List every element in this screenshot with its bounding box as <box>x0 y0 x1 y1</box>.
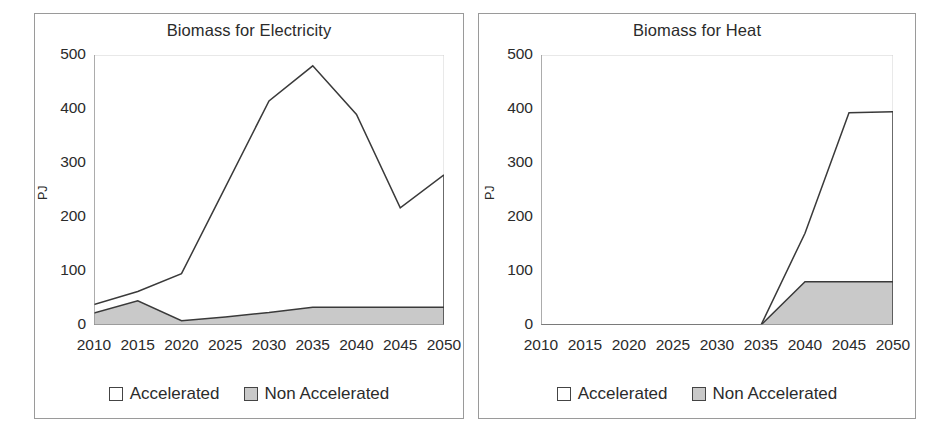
y-axis-tick-label: 100 <box>42 261 86 279</box>
x-axis-tick-label: 2020 <box>159 336 205 354</box>
legend-swatch-accelerated-icon <box>557 387 571 401</box>
legend-label-non-accelerated: Non Accelerated <box>265 384 390 404</box>
legend-swatch-non-accelerated-icon <box>244 387 258 401</box>
y-axis-tick-label: 300 <box>42 153 86 171</box>
y-axis-tick-label: 200 <box>42 207 86 225</box>
y-axis-tick-label: 500 <box>489 45 533 63</box>
series-area-non-accelerated <box>541 282 893 325</box>
chart-canvas <box>541 55 893 325</box>
figure-root: Biomass for Electricity PJ 0100200300400… <box>0 0 944 432</box>
y-axis-label: PJ <box>36 185 50 200</box>
legend-item-accelerated[interactable]: Accelerated <box>557 384 668 404</box>
x-axis-tick-label: 2010 <box>71 336 117 354</box>
x-axis-tick-label: 2015 <box>115 336 161 354</box>
legend-label-non-accelerated: Non Accelerated <box>713 384 838 404</box>
series-area-accelerated <box>94 66 444 325</box>
x-axis-tick-label: 2020 <box>606 336 652 354</box>
plot-area-biomass-for-heat: PJ 0100200300400500201020152020202520302… <box>479 14 915 418</box>
x-axis-tick-label: 2010 <box>518 336 564 354</box>
legend-item-non-accelerated[interactable]: Non Accelerated <box>692 384 838 404</box>
chart-panel-biomass-for-electricity: Biomass for Electricity PJ 0100200300400… <box>34 13 464 419</box>
x-axis-tick-label: 2025 <box>650 336 696 354</box>
y-axis-label: PJ <box>483 185 497 200</box>
x-axis-tick-label: 2045 <box>826 336 872 354</box>
legend-swatch-accelerated-icon <box>109 387 123 401</box>
x-axis-tick-label: 2015 <box>562 336 608 354</box>
legend-label-accelerated: Accelerated <box>130 384 220 404</box>
chart-panel-biomass-for-heat: Biomass for Heat PJ 01002003004005002010… <box>478 13 916 419</box>
x-axis-tick-label: 2050 <box>870 336 916 354</box>
x-axis-tick-label: 2040 <box>782 336 828 354</box>
x-axis-tick-label: 2030 <box>246 336 292 354</box>
y-axis-tick-label: 500 <box>42 45 86 63</box>
y-axis-tick-label: 200 <box>489 207 533 225</box>
x-axis-tick-label: 2050 <box>421 336 467 354</box>
legend-item-accelerated[interactable]: Accelerated <box>109 384 220 404</box>
x-axis-tick-label: 2045 <box>377 336 423 354</box>
x-axis-tick-label: 2030 <box>694 336 740 354</box>
legend-item-non-accelerated[interactable]: Non Accelerated <box>244 384 390 404</box>
chart-canvas <box>94 55 444 325</box>
y-axis-tick-label: 0 <box>42 315 86 333</box>
y-axis-tick-label: 300 <box>489 153 533 171</box>
y-axis-tick-label: 400 <box>42 99 86 117</box>
plot-area-biomass-for-electricity: PJ 0100200300400500201020152020202520302… <box>35 14 463 418</box>
chart-legend: Accelerated Non Accelerated <box>35 384 463 404</box>
y-axis-tick-label: 100 <box>489 261 533 279</box>
x-axis-tick-label: 2040 <box>334 336 380 354</box>
x-axis-tick-label: 2035 <box>290 336 336 354</box>
y-axis-tick-label: 400 <box>489 99 533 117</box>
legend-label-accelerated: Accelerated <box>578 384 668 404</box>
chart-legend: Accelerated Non Accelerated <box>479 384 915 404</box>
x-axis-tick-label: 2035 <box>738 336 784 354</box>
x-axis-tick-label: 2025 <box>202 336 248 354</box>
y-axis-tick-label: 0 <box>489 315 533 333</box>
legend-swatch-non-accelerated-icon <box>692 387 706 401</box>
